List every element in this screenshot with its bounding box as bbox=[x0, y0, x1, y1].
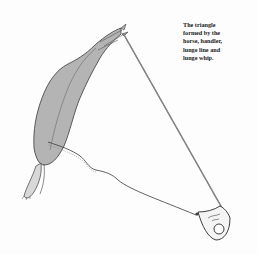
lunging-diagram: The triangle formed by the horse, handle… bbox=[0, 0, 257, 254]
caption-line: formed by the bbox=[183, 29, 255, 37]
caption-line: horse, handler, bbox=[183, 37, 255, 45]
lunge-line bbox=[48, 142, 196, 215]
caption-line: lunge line and bbox=[183, 46, 255, 54]
handler bbox=[195, 206, 230, 240]
caption-line: lunge whip. bbox=[183, 54, 255, 62]
horse bbox=[22, 24, 128, 200]
caption-line: The triangle bbox=[183, 21, 255, 29]
figure-caption: The triangle formed by the horse, handle… bbox=[183, 21, 255, 62]
